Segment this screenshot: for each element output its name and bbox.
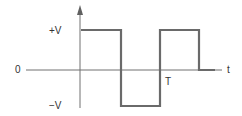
vertical-axis-arrow-icon	[77, 5, 83, 15]
square-waveform	[81, 30, 215, 106]
square-wave-diagram: +V 0 −V t T	[0, 0, 242, 116]
diagram-graphics	[0, 0, 242, 116]
time-axis-label: t	[227, 65, 230, 75]
plus-v-label: +V	[49, 26, 62, 36]
period-label: T	[165, 77, 171, 87]
minus-v-label: −V	[49, 101, 62, 111]
zero-label: 0	[15, 65, 21, 75]
